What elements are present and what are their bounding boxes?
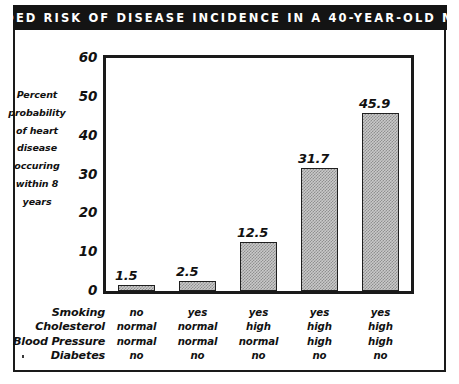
factor-cell: no [227,349,291,363]
factor-cell: yes [227,306,291,320]
factor-cell: no [166,349,230,363]
factor-cell: yes [288,306,352,320]
y-axis-title: Percent probability of heart disease occ… [8,86,66,211]
factor-row-label: Diabetes [13,349,105,363]
factor-row: Smokingnoyesyesyesyes [13,306,433,320]
factor-cell: normal [105,335,169,349]
factor-cell: yes [349,306,413,320]
factor-row-label: Blood Pressure [13,335,105,349]
chart-title-banner: ADDED RISK OF DISEASE INCIDENCE IN A 40-… [13,5,447,30]
bar-value-label: 2.5 [176,264,198,279]
bar [179,281,216,291]
factor-cell: high [349,320,413,334]
factor-row: Blood Pressurenormalnormalnormalhighhigh [13,335,433,349]
factor-cell: normal [166,320,230,334]
y-axis-tick-label: 10 [69,243,97,259]
factor-cell: high [349,335,413,349]
y-axis-title-line: Percent [8,86,66,104]
chart-figure: ADDED RISK OF DISEASE INCIDENCE IN A 40-… [0,0,459,384]
bar [301,168,338,291]
bar [118,285,155,291]
factor-cell: normal [105,320,169,334]
print-speck [22,355,24,358]
factor-cell: no [105,306,169,320]
bar-value-label: 1.5 [115,268,137,283]
y-axis-tick-label: 20 [69,204,97,220]
factor-cell: high [288,320,352,334]
plot-area: 1.52.512.531.745.9 [103,55,414,294]
factor-row: Cholesterolnormalnormalhighhighhigh [13,320,433,334]
bar-value-label: 45.9 [359,96,390,111]
factor-cell: high [227,320,291,334]
factor-row-label: Cholesterol [13,320,105,334]
bar [362,113,399,291]
y-axis-tick-label: 40 [69,127,97,143]
y-axis-tick-label: 30 [69,166,97,182]
y-axis-title-line: probability [8,104,66,122]
y-axis-tick-label: 50 [69,88,97,104]
y-axis-title-line: within 8 [8,175,66,193]
bar-value-label: 12.5 [237,225,268,240]
factor-cell: no [349,349,413,363]
y-axis-title-line: of heart [8,122,66,140]
factor-cell: high [288,335,352,349]
bar-value-label: 31.7 [298,151,329,166]
plot-inner: 1.52.512.531.745.9 [106,58,411,291]
factor-cell: yes [166,306,230,320]
factor-cell: normal [227,335,291,349]
x-axis-factor-table: SmokingnoyesyesyesyesCholesterolnormalno… [13,306,433,364]
y-axis-title-line: occuring [8,157,66,175]
factor-cell: normal [166,335,230,349]
factor-cell: no [105,349,169,363]
bar [240,242,277,291]
y-axis-tick-label: 60 [69,49,97,65]
factor-row: Diabetesnonononono [13,349,433,363]
factor-row-label: Smoking [13,306,105,320]
y-axis-title-line: years [8,193,66,211]
factor-cell: no [288,349,352,363]
y-axis-tick-label: 0 [69,282,97,298]
chart-title: ADDED RISK OF DISEASE INCIDENCE IN A 40-… [0,11,459,25]
y-axis-title-line: disease [8,139,66,157]
